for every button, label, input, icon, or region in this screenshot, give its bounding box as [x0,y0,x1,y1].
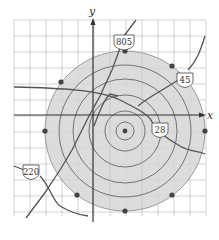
svg-text:45: 45 [180,75,191,85]
x-axis-label: x [207,109,214,122]
y-axis-label: y [88,5,96,18]
y-axis-arrow-icon [91,18,96,25]
shield-28: 28 [152,123,168,138]
svg-text:28: 28 [155,125,166,135]
shield-220: 220 [23,165,39,180]
svg-text:220: 220 [23,167,39,177]
shield-45: 45 [177,73,193,88]
svg-text:805: 805 [116,37,132,47]
coordinate-diagram: y x 805 45 28 220 [0,0,219,240]
shield-805: 805 [114,35,134,50]
